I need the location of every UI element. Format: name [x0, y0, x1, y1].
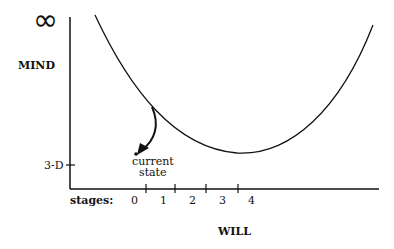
stage-label-4: 4	[248, 195, 255, 206]
y-tick-label-3d: 3-D	[44, 160, 64, 171]
y-axis-label: MIND	[18, 60, 55, 71]
stage-label-0: 0	[131, 195, 138, 206]
stage-label-3: 3	[219, 195, 226, 206]
descent-arrow	[142, 107, 156, 150]
stage-label-2: 2	[189, 195, 196, 206]
infinity-symbol: ∞	[33, 5, 58, 35]
x-axis-stages-label: stages:	[70, 195, 113, 206]
diagram-canvas	[0, 0, 394, 249]
current-state-label-line2: state	[139, 167, 167, 178]
x-axis-label: WILL	[218, 226, 251, 237]
stage-label-1: 1	[160, 195, 167, 206]
mind-will-curve	[95, 15, 373, 153]
